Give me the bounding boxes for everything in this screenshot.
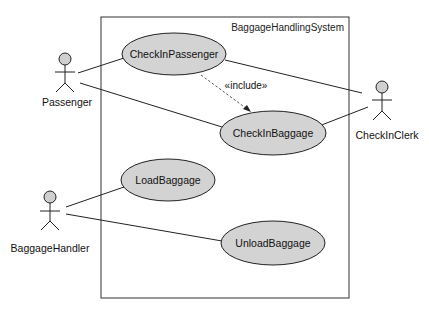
- use-case-checkinpassenger[interactable]: CheckInPassenger: [122, 33, 226, 75]
- use-case-diagram: BaggageHandlingSystem «include» CheckInP…: [0, 0, 429, 311]
- stick-figure-icon: [55, 53, 75, 92]
- actor-label: BaggageHandler: [11, 242, 90, 254]
- actor-checkinclerk[interactable]: CheckInClerk: [355, 81, 419, 141]
- use-case-label: LoadBaggage: [135, 174, 201, 186]
- assoc-baggagehandler-loadbaggage: [66, 187, 124, 207]
- system-label: BaggageHandlingSystem: [231, 22, 344, 33]
- actor-baggagehandler[interactable]: BaggageHandler: [11, 191, 90, 254]
- assoc-checkinclerk-checkinbaggage: [319, 107, 368, 126]
- actor-label: CheckInClerk: [355, 129, 419, 141]
- stick-figure-icon: [40, 191, 60, 230]
- include-arrowhead-icon: [243, 105, 251, 112]
- actor-passenger[interactable]: Passenger: [42, 53, 93, 108]
- use-case-checkinbaggage[interactable]: CheckInBaggage: [220, 111, 326, 155]
- stick-figure-icon: [372, 81, 392, 120]
- use-case-label: UnloadBaggage: [235, 237, 310, 249]
- use-case-loadbaggage[interactable]: LoadBaggage: [121, 159, 215, 201]
- use-case-label: CheckInBaggage: [233, 127, 314, 139]
- assoc-baggagehandler-unloadbaggage: [66, 214, 222, 241]
- actor-label: Passenger: [42, 96, 93, 108]
- use-case-unloadbaggage[interactable]: UnloadBaggage: [221, 221, 325, 265]
- use-case-label: CheckInPassenger: [130, 48, 219, 60]
- include-label: «include»: [225, 80, 268, 91]
